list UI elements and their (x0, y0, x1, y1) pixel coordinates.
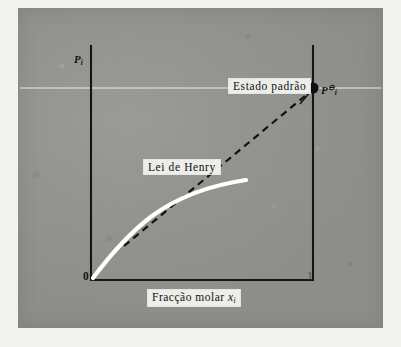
standard-pressure-letter: P (321, 84, 328, 96)
y-axis-label-symbol: P (74, 53, 81, 65)
standard-pressure-superscript: ⊖ (328, 83, 335, 92)
henry-law-label: Lei de Henry (144, 160, 220, 174)
x-tick-label-1: 1 (307, 270, 313, 282)
figure-container: Pi Estado padrão P⊖i Lei de Henry Fracçã… (0, 0, 401, 347)
x-axis-label-text: Fracção molar (152, 291, 225, 303)
standard-pressure-symbol: P⊖i (321, 83, 337, 97)
y-axis-label-subscript: i (81, 58, 83, 67)
real-pressure-curve (93, 180, 246, 278)
standard-pressure-subscript: i (335, 88, 337, 97)
standard-state-label: Estado padrão (229, 79, 310, 93)
x-tick-label-0: 0 (83, 270, 89, 282)
y-axis-label: Pi (74, 53, 83, 67)
x-axis-label-subscript: i (234, 296, 237, 305)
x-axis-label: Fracção molar xi (148, 290, 240, 306)
